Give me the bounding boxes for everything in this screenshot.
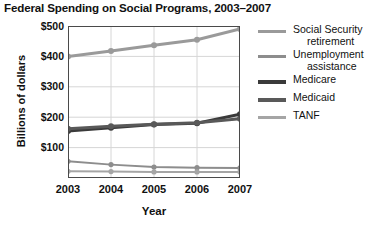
data-point-marker xyxy=(108,169,113,174)
legend-item-tanf[interactable]: TANF xyxy=(258,110,371,126)
plot-area xyxy=(68,26,240,178)
legend-item-label: Medicare xyxy=(293,74,371,86)
legend-item-medicare[interactable]: Medicare xyxy=(258,74,371,90)
y-tick-label: $200 xyxy=(20,111,64,123)
legend-item-medicaid[interactable]: Medicaid xyxy=(258,92,371,108)
data-point-marker xyxy=(194,120,200,126)
x-axis-title: Year xyxy=(68,205,240,217)
data-point-marker xyxy=(108,162,113,167)
legend-swatch-icon xyxy=(258,30,286,33)
data-point-marker xyxy=(151,169,156,174)
legend-swatch-icon xyxy=(258,116,286,119)
legend-swatch-icon xyxy=(258,98,286,102)
y-tick-label: $100 xyxy=(20,141,64,153)
x-tick-label: 2004 xyxy=(89,183,133,195)
data-point-marker xyxy=(151,42,157,48)
data-point-marker xyxy=(194,169,199,174)
data-point-marker xyxy=(151,121,157,127)
legend-item-unemployment-assistance[interactable]: Unemploymentassistance xyxy=(258,49,371,72)
legend-swatch-icon xyxy=(258,80,286,84)
legend-item-label: Social Securityretirement xyxy=(293,24,371,47)
x-tick-label: 2005 xyxy=(132,183,176,195)
legend-item-label: TANF xyxy=(293,110,371,122)
legend-item-label: Unemploymentassistance xyxy=(293,49,371,72)
x-tick-label: 2007 xyxy=(218,183,262,195)
chart-legend: Social Securityretirement Unemploymentas… xyxy=(258,24,371,128)
data-point-marker xyxy=(151,164,156,169)
y-tick-label: $400 xyxy=(20,50,64,62)
legend-item-label: Medicaid xyxy=(293,92,371,104)
data-point-marker xyxy=(108,48,114,54)
x-tick-label: 2006 xyxy=(175,183,219,195)
data-point-marker xyxy=(194,37,200,43)
legend-item-social-security-retirement[interactable]: Social Securityretirement xyxy=(258,24,371,47)
y-tick-label: $300 xyxy=(20,80,64,92)
legend-swatch-icon xyxy=(258,55,286,58)
y-tick-label: $500 xyxy=(20,20,64,32)
x-tick-label: 2003 xyxy=(46,183,90,195)
data-point-marker xyxy=(108,123,114,129)
chart-figure: Federal Spending on Social Programs, 200… xyxy=(0,0,373,229)
